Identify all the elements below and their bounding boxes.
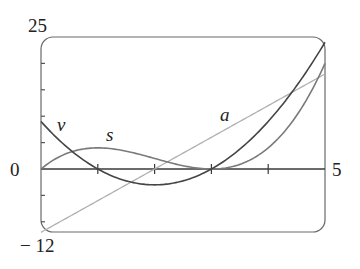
x-min-label: 0 <box>10 159 20 180</box>
y-max-label: 25 <box>28 15 47 36</box>
chart: 25 0 5 − 12 v s a <box>0 0 360 269</box>
series-v-line <box>41 42 325 185</box>
series-v-label: v <box>57 114 66 135</box>
series-a-label: a <box>220 104 230 125</box>
curves <box>41 42 325 232</box>
series-s-label: s <box>106 124 113 145</box>
x-max-label: 5 <box>332 159 342 180</box>
series-a-line <box>41 74 325 232</box>
y-min-label: − 12 <box>20 235 54 256</box>
